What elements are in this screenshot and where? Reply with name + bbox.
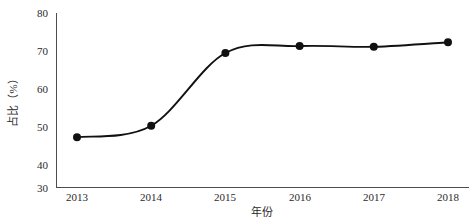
x-tick-label-2014: 2014 bbox=[140, 191, 163, 203]
y-tick-label-60: 60 bbox=[37, 83, 49, 95]
series-line-path bbox=[77, 42, 448, 137]
data-point-2015 bbox=[221, 49, 229, 57]
data-point-2014 bbox=[147, 122, 155, 130]
data-point-2017 bbox=[370, 43, 378, 51]
x-tick-label-2015: 2015 bbox=[214, 191, 237, 203]
data-point-2013 bbox=[73, 133, 81, 141]
data-point-2016 bbox=[296, 42, 304, 50]
y-tick-label-40: 40 bbox=[37, 159, 49, 171]
y-tick-label-70: 70 bbox=[37, 45, 49, 57]
x-tick-label-2017: 2017 bbox=[363, 191, 386, 203]
y-tick-label-50: 50 bbox=[37, 121, 49, 133]
x-tick-label-2013: 2013 bbox=[66, 191, 89, 203]
chart-canvas: 80 70 60 50 40 30 2013 2014 2015 2016 20… bbox=[0, 0, 474, 220]
y-tick-label-80: 80 bbox=[37, 7, 49, 19]
data-point-markers bbox=[73, 38, 452, 141]
x-tick-label-2018: 2018 bbox=[437, 191, 460, 203]
x-tick-label-2016: 2016 bbox=[289, 191, 312, 203]
data-point-2018 bbox=[444, 38, 452, 46]
x-axis-title: 年份 bbox=[251, 205, 273, 218]
y-axis-title: 占比（%） bbox=[6, 73, 19, 126]
line-chart: 80 70 60 50 40 30 2013 2014 2015 2016 20… bbox=[0, 0, 474, 220]
y-tick-label-30: 30 bbox=[37, 182, 49, 194]
